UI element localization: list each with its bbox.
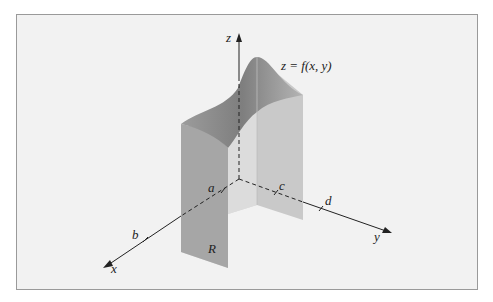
z-axis-label: z — [226, 31, 231, 44]
x-axis-label: x — [111, 262, 117, 275]
tick-label-a: a — [208, 181, 215, 194]
solid-left-face — [181, 124, 228, 268]
surface-equation-label: z = f(x, y) — [281, 59, 332, 72]
z-axis-arrow-icon — [236, 33, 242, 42]
tick-label-c: c — [279, 179, 285, 192]
y-axis-arrow-icon — [382, 227, 392, 233]
tick-label-d: d — [325, 194, 332, 207]
region-label: R — [208, 242, 216, 255]
diagram-canvas — [0, 0, 493, 302]
tick-label-b: b — [132, 228, 139, 241]
tick-b — [143, 237, 148, 242]
y-axis-label: y — [374, 230, 380, 243]
